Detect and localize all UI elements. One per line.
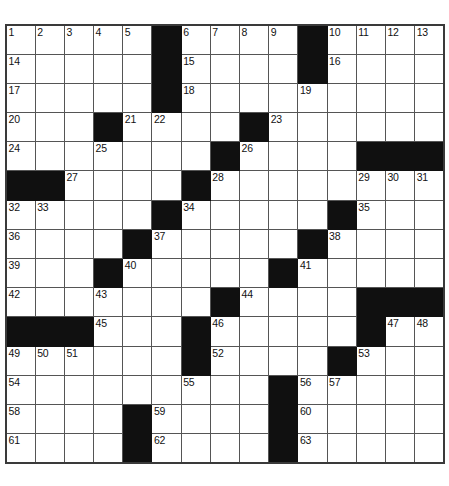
letter-cell[interactable]: 3 — [64, 25, 93, 54]
letter-cell[interactable]: 22 — [152, 113, 181, 142]
letter-cell[interactable]: 37 — [152, 229, 181, 258]
letter-cell[interactable] — [385, 200, 414, 229]
letter-cell[interactable] — [385, 54, 414, 83]
letter-cell[interactable]: 60 — [298, 404, 327, 433]
letter-cell[interactable] — [181, 434, 210, 463]
crossword-grid[interactable]: 1234567891011121314151617181920212223242… — [5, 24, 445, 464]
letter-cell[interactable] — [356, 434, 385, 463]
letter-cell[interactable]: 31 — [415, 171, 444, 200]
letter-cell[interactable] — [240, 346, 269, 375]
letter-cell[interactable] — [181, 288, 210, 317]
letter-cell[interactable] — [269, 317, 298, 346]
letter-cell[interactable]: 54 — [6, 375, 35, 404]
letter-cell[interactable]: 23 — [269, 113, 298, 142]
letter-cell[interactable] — [385, 229, 414, 258]
letter-cell[interactable]: 15 — [181, 54, 210, 83]
letter-cell[interactable] — [269, 288, 298, 317]
letter-cell[interactable]: 27 — [64, 171, 93, 200]
letter-cell[interactable] — [123, 54, 152, 83]
letter-cell[interactable]: 47 — [385, 317, 414, 346]
letter-cell[interactable]: 56 — [298, 375, 327, 404]
letter-cell[interactable] — [210, 113, 239, 142]
letter-cell[interactable] — [123, 200, 152, 229]
letter-cell[interactable] — [152, 288, 181, 317]
letter-cell[interactable] — [327, 113, 356, 142]
letter-cell[interactable] — [356, 229, 385, 258]
letter-cell[interactable]: 43 — [94, 288, 123, 317]
letter-cell[interactable]: 8 — [240, 25, 269, 54]
letter-cell[interactable] — [356, 83, 385, 112]
letter-cell[interactable] — [94, 200, 123, 229]
letter-cell[interactable] — [415, 404, 444, 433]
letter-cell[interactable] — [64, 229, 93, 258]
letter-cell[interactable]: 58 — [6, 404, 35, 433]
letter-cell[interactable] — [327, 434, 356, 463]
letter-cell[interactable] — [94, 404, 123, 433]
letter-cell[interactable] — [356, 375, 385, 404]
letter-cell[interactable]: 12 — [385, 25, 414, 54]
letter-cell[interactable] — [269, 229, 298, 258]
letter-cell[interactable] — [415, 229, 444, 258]
letter-cell[interactable] — [415, 113, 444, 142]
letter-cell[interactable] — [152, 317, 181, 346]
letter-cell[interactable]: 5 — [123, 25, 152, 54]
letter-cell[interactable] — [64, 404, 93, 433]
letter-cell[interactable] — [385, 83, 414, 112]
letter-cell[interactable] — [327, 259, 356, 288]
letter-cell[interactable]: 21 — [123, 113, 152, 142]
letter-cell[interactable] — [240, 83, 269, 112]
letter-cell[interactable]: 34 — [181, 200, 210, 229]
letter-cell[interactable] — [123, 346, 152, 375]
letter-cell[interactable]: 51 — [64, 346, 93, 375]
letter-cell[interactable] — [240, 171, 269, 200]
letter-cell[interactable] — [210, 375, 239, 404]
letter-cell[interactable] — [298, 142, 327, 171]
letter-cell[interactable]: 40 — [123, 259, 152, 288]
letter-cell[interactable] — [94, 229, 123, 258]
letter-cell[interactable]: 52 — [210, 346, 239, 375]
letter-cell[interactable] — [210, 259, 239, 288]
letter-cell[interactable] — [327, 142, 356, 171]
letter-cell[interactable] — [210, 83, 239, 112]
letter-cell[interactable]: 38 — [327, 229, 356, 258]
letter-cell[interactable] — [152, 375, 181, 404]
letter-cell[interactable] — [240, 404, 269, 433]
letter-cell[interactable] — [298, 317, 327, 346]
letter-cell[interactable] — [385, 404, 414, 433]
letter-cell[interactable] — [240, 54, 269, 83]
letter-cell[interactable]: 13 — [415, 25, 444, 54]
letter-cell[interactable]: 28 — [210, 171, 239, 200]
letter-cell[interactable] — [181, 113, 210, 142]
letter-cell[interactable] — [181, 142, 210, 171]
letter-cell[interactable] — [210, 200, 239, 229]
letter-cell[interactable] — [152, 346, 181, 375]
letter-cell[interactable]: 35 — [356, 200, 385, 229]
letter-cell[interactable] — [35, 113, 64, 142]
letter-cell[interactable] — [94, 83, 123, 112]
letter-cell[interactable]: 50 — [35, 346, 64, 375]
letter-cell[interactable] — [240, 200, 269, 229]
letter-cell[interactable]: 29 — [356, 171, 385, 200]
letter-cell[interactable] — [35, 54, 64, 83]
letter-cell[interactable]: 24 — [6, 142, 35, 171]
letter-cell[interactable]: 18 — [181, 83, 210, 112]
letter-cell[interactable]: 14 — [6, 54, 35, 83]
letter-cell[interactable] — [415, 54, 444, 83]
letter-cell[interactable] — [210, 404, 239, 433]
letter-cell[interactable]: 33 — [35, 200, 64, 229]
letter-cell[interactable] — [94, 375, 123, 404]
letter-cell[interactable] — [240, 259, 269, 288]
letter-cell[interactable]: 19 — [298, 83, 327, 112]
letter-cell[interactable] — [298, 346, 327, 375]
letter-cell[interactable] — [64, 54, 93, 83]
letter-cell[interactable] — [356, 113, 385, 142]
letter-cell[interactable] — [152, 259, 181, 288]
letter-cell[interactable]: 49 — [6, 346, 35, 375]
letter-cell[interactable] — [94, 54, 123, 83]
letter-cell[interactable]: 11 — [356, 25, 385, 54]
letter-cell[interactable]: 36 — [6, 229, 35, 258]
letter-cell[interactable] — [298, 171, 327, 200]
letter-cell[interactable] — [269, 83, 298, 112]
letter-cell[interactable]: 39 — [6, 259, 35, 288]
letter-cell[interactable] — [385, 434, 414, 463]
